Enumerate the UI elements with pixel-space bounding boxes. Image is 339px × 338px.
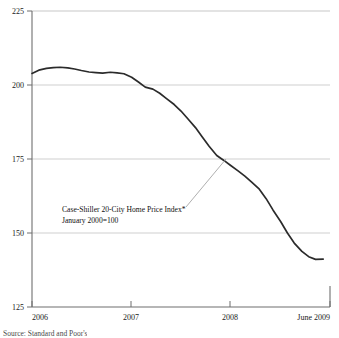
gridlines xyxy=(32,11,330,233)
y-tick-label-150: 150 xyxy=(12,229,24,238)
x-tick-label-2006: 2006 xyxy=(32,313,48,322)
y-tick-label-200: 200 xyxy=(12,81,24,90)
y-tick-label-225: 225 xyxy=(12,7,24,16)
y-tick-label-125: 125 xyxy=(12,303,24,312)
y-tick-marks xyxy=(27,11,32,307)
chart-container: 225 200 175 150 125 2006 2007 2008 June … xyxy=(0,0,339,338)
annotation-label-line2: January 2000=100 xyxy=(62,216,119,225)
source-note: Source: Standard and Poor's xyxy=(3,329,87,338)
y-tick-label-175: 175 xyxy=(12,155,24,164)
x-tick-label-2007: 2007 xyxy=(123,313,139,322)
x-tick-label-2008: 2008 xyxy=(222,313,238,322)
annotation-label-line1: Case-Shiller 20-City Home Price Index* xyxy=(62,205,186,214)
annotation-leader-line xyxy=(186,159,226,207)
series-line-case-shiller xyxy=(32,67,323,259)
x-tick-marks xyxy=(32,301,330,307)
home-price-index-line-chart: 225 200 175 150 125 2006 2007 2008 June … xyxy=(0,0,339,338)
x-tick-label-june-2009: June 2009 xyxy=(297,313,330,322)
